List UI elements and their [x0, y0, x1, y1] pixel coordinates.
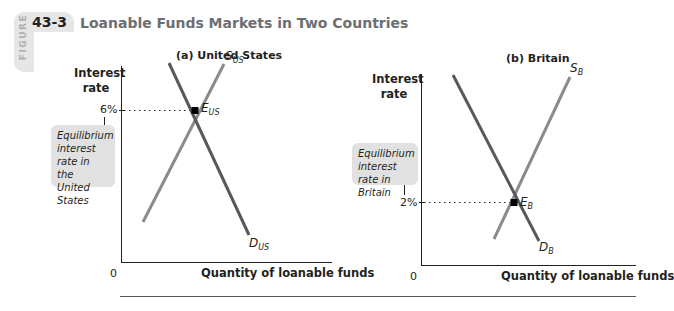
britain-origin: 0: [410, 270, 417, 283]
britain-supply-sub: B: [578, 68, 584, 77]
us-y-axis-label: Interest rate: [74, 66, 118, 96]
us-supply-letter: S: [225, 49, 233, 63]
us-x-axis-label: Quantity of loanable funds: [201, 266, 374, 281]
britain-demand-curve: [453, 75, 539, 241]
britain-eq-sub: B: [528, 202, 534, 211]
britain-supply-label: SB: [570, 61, 583, 77]
britain-panel-title: (b) Britain: [506, 52, 570, 65]
britain-y-axis-label-line1: Interest: [372, 72, 416, 87]
us-y-axis-label-line1: Interest: [74, 66, 118, 81]
britain-eq-letter: E: [520, 195, 528, 209]
us-supply-curve: [143, 64, 224, 222]
britain-supply-curve: [494, 77, 570, 239]
us-supply-sub: US: [233, 56, 244, 65]
us-equilibrium-point: [192, 107, 199, 114]
britain-equilibrium-point: [511, 199, 518, 206]
britain-y-axis-label: Interest rate: [372, 72, 416, 102]
britain-y-axis-label-line2: rate: [372, 87, 416, 102]
britain-demand-sub: B: [548, 247, 554, 256]
us-eq-letter: E: [201, 101, 209, 115]
britain-supply-letter: S: [570, 61, 578, 75]
us-eq-sub: US: [209, 108, 220, 117]
britain-demand-letter: D: [539, 240, 548, 254]
us-callout: Equilibrium interest rate in the United …: [51, 125, 115, 187]
us-demand-sub: US: [258, 243, 269, 252]
britain-callout: Equilibrium interest rate in Britain: [352, 143, 418, 185]
britain-x-axis-label: Quantity of loanable funds: [501, 269, 674, 284]
britain-y-tick-2pct: 2%: [400, 196, 417, 209]
britain-equilibrium-label: EB: [520, 195, 533, 211]
us-y-axis-label-line2: rate: [74, 81, 118, 96]
us-supply-label: SUS: [225, 49, 244, 65]
us-demand-label: DUS: [249, 236, 269, 252]
us-y-tick-6pct: 6%: [100, 103, 117, 116]
britain-demand-label: DB: [539, 240, 554, 256]
us-axes: [119, 66, 332, 263]
us-origin: 0: [110, 267, 117, 280]
us-equilibrium-label: EUS: [201, 101, 220, 117]
us-demand-letter: D: [249, 236, 258, 250]
